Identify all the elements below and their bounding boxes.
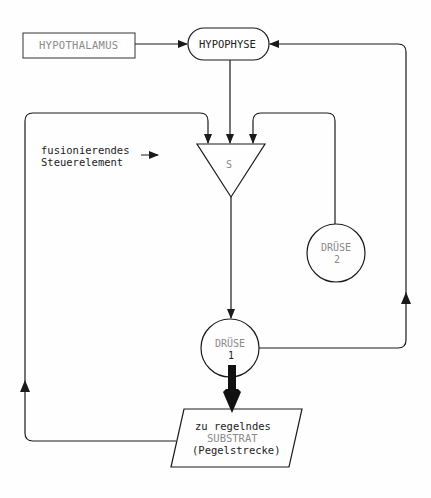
druese2-label-line2: 2 xyxy=(334,255,340,265)
substrat-label-line3: (Pegelstrecke) xyxy=(192,445,281,456)
hypothalamus-label: HYPOTHALAMUS xyxy=(39,40,118,51)
right-loop-up-arrow-icon xyxy=(401,292,411,304)
druese1-label-line1: DRÜSE xyxy=(215,339,245,349)
right-feedback-loop xyxy=(259,44,406,348)
feedback-diagram: HYPOTHALAMUS HYPOPHYSE fusionierendes St… xyxy=(0,0,431,498)
thick-arrow-shaft xyxy=(228,365,236,391)
substrat-label-line1: zu regelndes xyxy=(195,421,271,432)
druese2-label-line1: DRÜSE xyxy=(321,243,351,253)
steuerelement-triangle xyxy=(197,144,265,197)
annotation-line2: Steuerelement xyxy=(41,157,123,168)
druese2-to-s-loop xyxy=(253,113,335,224)
druese1-label-line2: 1 xyxy=(228,351,234,361)
annotation-line1: fusionierendes xyxy=(41,145,130,156)
hypophyse-label: HYPOPHYSE xyxy=(199,39,256,50)
druese2-circle xyxy=(307,224,365,282)
substrat-label-line2: SUBSTRAT xyxy=(207,433,258,444)
steuerelement-label: S xyxy=(226,160,232,170)
left-loop-up-arrow-icon xyxy=(20,380,30,392)
